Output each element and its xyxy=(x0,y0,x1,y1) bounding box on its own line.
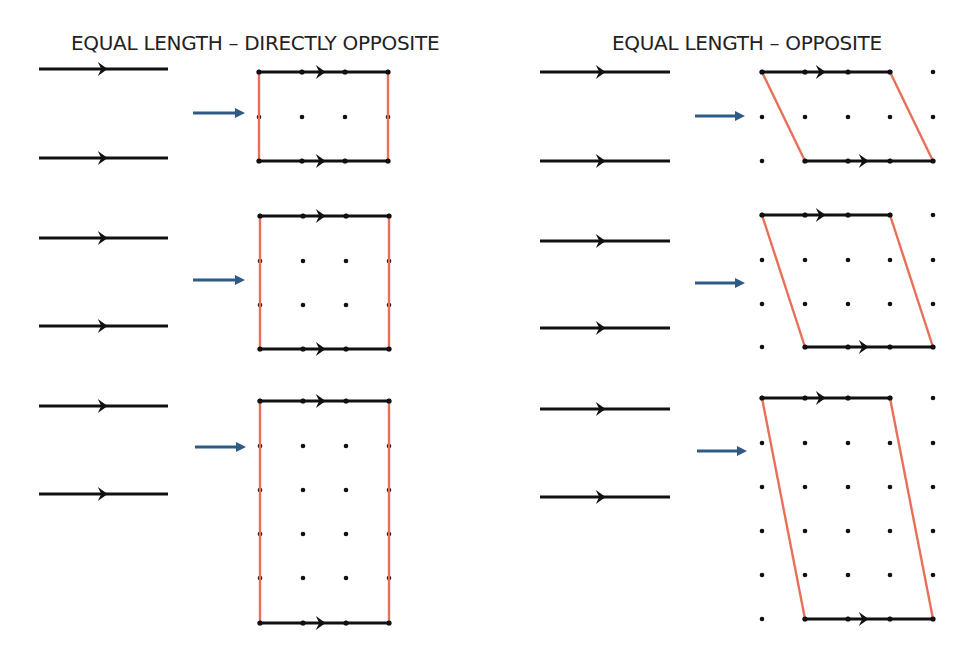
grid-dot xyxy=(845,395,850,400)
shape-parallelogram-medium xyxy=(695,208,936,354)
grid-dot xyxy=(803,115,808,120)
grid-dot xyxy=(344,576,349,581)
grid-dot xyxy=(803,529,808,534)
grid-dot xyxy=(845,616,850,621)
grid-dot xyxy=(300,620,305,625)
directed-segment xyxy=(39,319,168,333)
grid-dot xyxy=(760,159,765,164)
grid-dot xyxy=(301,488,306,493)
segment-pair-3 xyxy=(39,399,168,501)
grid-dot xyxy=(888,529,893,534)
grid-dot xyxy=(888,115,893,120)
grid-dot xyxy=(342,158,347,163)
grid-dot xyxy=(760,529,765,534)
grid-dot xyxy=(887,395,892,400)
side-edge-right xyxy=(890,398,933,619)
panel-opposite xyxy=(540,65,936,626)
directed-segment xyxy=(540,490,670,504)
side-edge-left xyxy=(762,215,805,347)
directed-segment xyxy=(540,234,670,248)
grid-dot xyxy=(845,69,850,74)
edge-dots xyxy=(759,395,935,621)
bottom-edge-directed xyxy=(805,154,933,168)
directed-segment xyxy=(39,399,168,413)
grid-dot xyxy=(802,212,807,217)
grid-dot xyxy=(386,620,391,625)
segment-pair-3 xyxy=(540,402,670,504)
edge-dots xyxy=(257,213,391,351)
edge-dots xyxy=(256,69,390,163)
grid-dot xyxy=(888,573,893,578)
grid-dot xyxy=(888,441,893,446)
grid-dot xyxy=(931,302,936,307)
grid-dot xyxy=(802,344,807,349)
segment-pair-2 xyxy=(39,231,168,333)
grid-dot xyxy=(300,115,305,120)
grid-dot xyxy=(301,444,306,449)
top-edge-directed xyxy=(260,209,389,223)
grid-dot xyxy=(846,115,851,120)
grid-dot xyxy=(257,346,262,351)
grid-dot xyxy=(802,69,807,74)
segment-pair-1 xyxy=(39,62,168,165)
top-edge-directed xyxy=(762,65,890,79)
side-edge-right xyxy=(890,72,933,161)
shape-parallelogram-tall xyxy=(697,391,936,626)
grid-dot xyxy=(343,398,348,403)
grid-dot xyxy=(931,115,936,120)
grid-dot xyxy=(386,213,391,218)
grid-dot xyxy=(257,620,262,625)
grid-dot xyxy=(344,303,349,308)
grid-dot xyxy=(301,576,306,581)
grid-dot xyxy=(344,488,349,493)
grid-dot xyxy=(760,302,765,307)
grid-dot xyxy=(300,213,305,218)
grid-dot xyxy=(803,302,808,307)
edge-dots xyxy=(759,212,935,349)
grid-dot xyxy=(803,441,808,446)
grid-dot xyxy=(930,616,935,621)
grid-dot xyxy=(888,302,893,307)
directed-segment xyxy=(39,231,168,245)
grid-dot xyxy=(931,213,936,218)
grid-dot xyxy=(930,158,935,163)
grid-dot xyxy=(802,616,807,621)
diagram-canvas xyxy=(0,0,975,660)
top-edge-directed xyxy=(259,65,388,79)
grid-dot xyxy=(257,213,262,218)
segment-pair-1 xyxy=(540,65,670,168)
dot-grid xyxy=(258,399,392,626)
directed-segment xyxy=(39,487,168,501)
grid-dot xyxy=(846,441,851,446)
grid-dot xyxy=(385,158,390,163)
grid-dot xyxy=(299,69,304,74)
grid-dot xyxy=(760,258,765,263)
grid-dot xyxy=(759,212,764,217)
dot-grid xyxy=(760,213,936,350)
blue-arrow-icon xyxy=(697,446,747,456)
grid-dot xyxy=(343,346,348,351)
grid-dot xyxy=(845,212,850,217)
grid-dot xyxy=(386,346,391,351)
grid-dot xyxy=(803,485,808,490)
directed-segment xyxy=(540,321,670,335)
grid-dot xyxy=(759,69,764,74)
bottom-edge-directed xyxy=(260,342,389,356)
directed-segment xyxy=(540,65,670,79)
grid-dot xyxy=(759,395,764,400)
grid-dot xyxy=(301,532,306,537)
directed-segment xyxy=(39,62,168,76)
shape-rectangle-3x3 xyxy=(193,209,392,356)
grid-dot xyxy=(887,158,892,163)
grid-dot xyxy=(846,485,851,490)
grid-dot xyxy=(342,69,347,74)
blue-arrow-icon xyxy=(193,108,245,118)
side-edge-left xyxy=(762,72,805,161)
grid-dot xyxy=(760,115,765,120)
panel-directly-opposite xyxy=(39,62,392,630)
shape-parallelogram-small xyxy=(695,65,936,168)
dot-grid xyxy=(760,396,936,622)
grid-dot xyxy=(344,444,349,449)
grid-dot xyxy=(846,573,851,578)
grid-dot xyxy=(931,396,936,401)
